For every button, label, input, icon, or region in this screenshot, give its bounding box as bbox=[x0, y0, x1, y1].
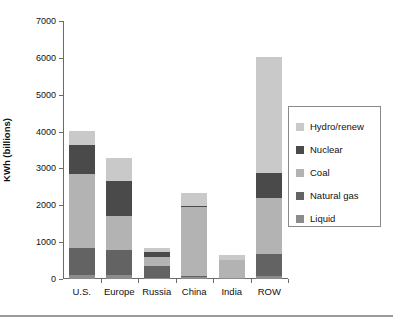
bar-segment-coal[interactable] bbox=[106, 216, 132, 251]
y-tick-mark bbox=[59, 242, 63, 243]
x-tick-label: Europe bbox=[104, 286, 135, 297]
bar-segment-liquid[interactable] bbox=[144, 278, 170, 279]
x-tick-mark bbox=[138, 279, 139, 283]
figure-bottom-rule bbox=[0, 315, 393, 317]
legend-item[interactable]: Liquid bbox=[296, 207, 380, 230]
legend-swatch-icon bbox=[296, 215, 304, 223]
x-tick-label: ROW bbox=[258, 286, 281, 297]
y-tick-label: 1000 bbox=[36, 238, 56, 247]
legend-label: Natural gas bbox=[310, 190, 359, 201]
y-tick-label: 0 bbox=[51, 275, 56, 284]
legend-label: Liquid bbox=[310, 213, 335, 224]
stacked-bar[interactable] bbox=[144, 248, 170, 279]
y-tick-label: 4000 bbox=[36, 127, 56, 136]
bar-segment-liquid[interactable] bbox=[219, 278, 245, 279]
x-tick-mark bbox=[288, 279, 289, 283]
y-axis-title: KWh (billions) bbox=[1, 118, 12, 182]
legend-label: Coal bbox=[310, 167, 330, 178]
bar-segment-liquid[interactable] bbox=[256, 276, 282, 279]
bar-segment-liquid[interactable] bbox=[69, 275, 95, 279]
bar-group[interactable]: ROW bbox=[256, 57, 282, 279]
bar-segment-coal[interactable] bbox=[256, 198, 282, 254]
bar-group[interactable]: Russia bbox=[144, 248, 170, 279]
bar-segment-natural-gas[interactable] bbox=[144, 266, 170, 278]
bar-segment-nuclear[interactable] bbox=[69, 145, 95, 174]
bar-group[interactable]: India bbox=[219, 255, 245, 279]
chart-figure: KWh (billions) 0100020003000400050006000… bbox=[0, 0, 393, 326]
legend-item[interactable]: Coal bbox=[296, 161, 380, 184]
y-tick-label: 2000 bbox=[36, 201, 56, 210]
stacked-bar[interactable] bbox=[219, 255, 245, 279]
bar-group[interactable]: China bbox=[181, 193, 207, 279]
bar-segment-coal[interactable] bbox=[219, 260, 245, 278]
x-tick-mark bbox=[213, 279, 214, 283]
bar-group[interactable]: U.S. bbox=[69, 130, 95, 279]
bar-segment-hydro-renew[interactable] bbox=[256, 57, 282, 173]
bar-segment-nuclear[interactable] bbox=[256, 173, 282, 199]
y-tick-mark bbox=[59, 95, 63, 96]
x-tick-mark bbox=[176, 279, 177, 283]
stacked-bar[interactable] bbox=[69, 130, 95, 279]
x-tick-mark bbox=[101, 279, 102, 283]
bar-segment-natural-gas[interactable] bbox=[256, 254, 282, 275]
legend-swatch-icon bbox=[296, 123, 304, 131]
plot-area: 01000200030004000500060007000 U.S.Europe… bbox=[63, 21, 288, 279]
y-tick-label: 5000 bbox=[36, 90, 56, 99]
legend-swatch-icon bbox=[296, 146, 304, 154]
x-tick-label: Russia bbox=[142, 286, 171, 297]
y-tick-mark bbox=[59, 21, 63, 22]
stacked-bar[interactable] bbox=[106, 158, 132, 279]
x-tick-label: China bbox=[182, 286, 207, 297]
bar-segment-liquid[interactable] bbox=[106, 275, 132, 279]
bar-segment-coal[interactable] bbox=[69, 174, 95, 248]
bar-segment-hydro-renew[interactable] bbox=[106, 158, 132, 181]
bar-segment-natural-gas[interactable] bbox=[69, 248, 95, 275]
stacked-bar[interactable] bbox=[256, 57, 282, 279]
legend-label: Nuclear bbox=[310, 144, 343, 155]
bar-segment-hydro-renew[interactable] bbox=[69, 131, 95, 145]
bar-segment-hydro-renew[interactable] bbox=[181, 193, 207, 206]
stacked-bar[interactable] bbox=[181, 193, 207, 279]
bar-segment-coal[interactable] bbox=[181, 207, 207, 276]
x-tick-label: India bbox=[221, 286, 242, 297]
y-tick-mark bbox=[59, 168, 63, 169]
y-tick-label: 7000 bbox=[36, 17, 56, 26]
chart-legend: Hydro/renewNuclearCoalNatural gasLiquid bbox=[288, 106, 381, 227]
y-tick-mark bbox=[59, 132, 63, 133]
legend-item[interactable]: Hydro/renew bbox=[296, 115, 380, 138]
legend-swatch-icon bbox=[296, 192, 304, 200]
y-tick-label: 6000 bbox=[36, 53, 56, 62]
bar-segment-coal[interactable] bbox=[144, 257, 170, 266]
y-axis-line bbox=[63, 21, 64, 279]
legend-item[interactable]: Nuclear bbox=[296, 138, 380, 161]
legend-item[interactable]: Natural gas bbox=[296, 184, 380, 207]
y-tick-mark bbox=[59, 279, 63, 280]
legend-label: Hydro/renew bbox=[310, 121, 364, 132]
y-tick-mark bbox=[59, 58, 63, 59]
bar-segment-liquid[interactable] bbox=[181, 277, 207, 279]
y-tick-mark bbox=[59, 205, 63, 206]
bar-segment-natural-gas[interactable] bbox=[106, 250, 132, 275]
x-tick-mark bbox=[251, 279, 252, 283]
y-tick-label: 3000 bbox=[36, 164, 56, 173]
bar-segment-nuclear[interactable] bbox=[106, 181, 132, 216]
bar-group[interactable]: Europe bbox=[106, 158, 132, 279]
legend-swatch-icon bbox=[296, 169, 304, 177]
x-tick-label: U.S. bbox=[73, 286, 91, 297]
